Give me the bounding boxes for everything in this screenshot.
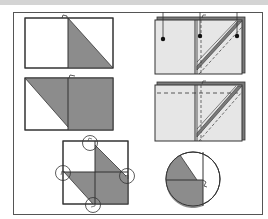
pin-icon	[161, 37, 165, 41]
pin-icon	[235, 34, 239, 38]
panel-5	[56, 136, 135, 213]
folding-diagram	[0, 0, 268, 219]
panel-3	[155, 12, 245, 74]
pin-icon	[198, 34, 202, 38]
panel-2	[25, 75, 113, 130]
panel-1	[25, 15, 113, 68]
panel-6	[166, 152, 220, 208]
panel-4	[155, 81, 245, 141]
